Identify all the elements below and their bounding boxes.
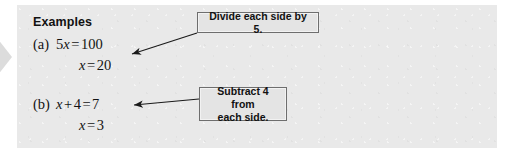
example-a-solution-equals: = (85, 57, 96, 73)
page-title: Examples (33, 15, 92, 29)
callout-divide-text: Divide each side by 5. (204, 10, 312, 36)
example-b-addend: 4 (74, 96, 81, 112)
example-b-plus: + (62, 96, 73, 112)
callout-subtract-text: Subtract 4 from each side. (206, 85, 280, 124)
example-b-line-1: (b)x+4=7 (33, 96, 99, 113)
examples-panel: Examples (a)5x=100 x=20 (b)x+4=7 x=3 Div… (17, 5, 497, 148)
example-b-label: (b) (33, 96, 56, 113)
example-a-line-1: (a)5x=100 (33, 36, 103, 53)
callout-subtract-line-2: each side. (218, 111, 269, 123)
callout-divide-each-side: Divide each side by 5. (197, 12, 319, 33)
example-a-label: (a) (33, 36, 56, 53)
example-a-equals: = (70, 36, 81, 52)
example-b-equals: = (81, 96, 92, 112)
example-a-line-2: x=20 (33, 57, 111, 74)
example-a-value: 100 (81, 36, 103, 52)
callout-subtract-four: Subtract 4 from each side. (199, 87, 287, 121)
textbook-examples-figure: Examples (a)5x=100 x=20 (b)x+4=7 x=3 Div… (0, 0, 518, 161)
callout-subtract-line-1: Subtract 4 from (217, 85, 268, 110)
example-b-solution-value: 3 (97, 117, 104, 133)
example-a-variable: x (63, 36, 69, 52)
example-a-solution-value: 20 (97, 57, 112, 73)
example-b-solution-equals: = (85, 117, 96, 133)
example-b-line-2: x=3 (33, 117, 104, 134)
example-b-value: 7 (92, 96, 99, 112)
